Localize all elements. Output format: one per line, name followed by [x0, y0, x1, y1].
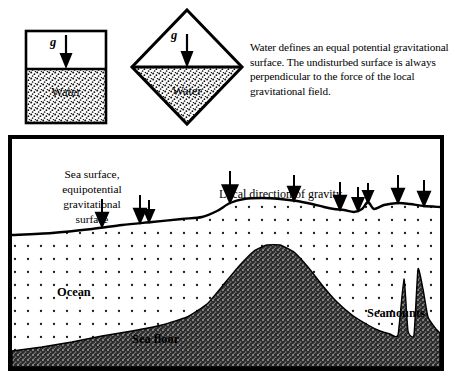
gravity-arrow-8 [362, 183, 375, 205]
caption-paragraph: Water defines an equal potential gravita… [250, 40, 450, 98]
diamond-gravity-label: g [171, 28, 177, 43]
diamond-container-svg [128, 6, 246, 128]
figure-root: g Water [0, 0, 454, 389]
square-gravity-arrow-head [60, 53, 73, 69]
container-comparison-row: g Water [0, 0, 454, 132]
diamond-water-label: Water [128, 84, 246, 99]
diamond-gravity-arrow-head [181, 51, 194, 68]
ocean-cross-section-panel: Sea surface, equipotential gravitational… [8, 135, 444, 371]
ocean-label: Ocean [57, 285, 91, 300]
diamond-water-container: g Water [128, 6, 246, 128]
sea-floor-label: Sea floor [132, 332, 179, 347]
seamounts-label: Seamounts [367, 306, 425, 321]
gravity-arrow-10 [417, 180, 432, 208]
square-container-svg [24, 29, 108, 125]
square-water-container: g Water [24, 29, 108, 125]
square-gravity-label: g [50, 35, 56, 50]
gravity-arrow-9 [391, 175, 406, 205]
caption-text: Water defines an equal potential gravita… [250, 40, 450, 98]
square-water-label: Water [24, 85, 108, 100]
sea-surface-label: Sea surface, equipotential gravitational… [26, 167, 158, 227]
gravity-direction-label: Local direction of gravity [219, 187, 342, 202]
